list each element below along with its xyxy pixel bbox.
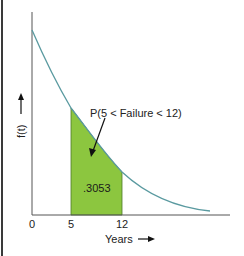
y-axis-label: f(t) <box>15 125 27 138</box>
shaded-probability-area <box>71 108 122 215</box>
density-chart: P(5 < Failure < 12) .3053 0 5 12 Years f… <box>0 0 244 256</box>
tick-0: 0 <box>29 218 35 230</box>
tick-12: 12 <box>116 218 128 230</box>
annotation-label: P(5 < Failure < 12) <box>90 107 182 119</box>
arrow-up-icon <box>18 93 24 100</box>
x-axis-label: Years <box>105 233 133 245</box>
tick-5: 5 <box>68 218 74 230</box>
area-value-label: .3053 <box>83 182 111 194</box>
arrow-right-icon <box>148 236 155 242</box>
